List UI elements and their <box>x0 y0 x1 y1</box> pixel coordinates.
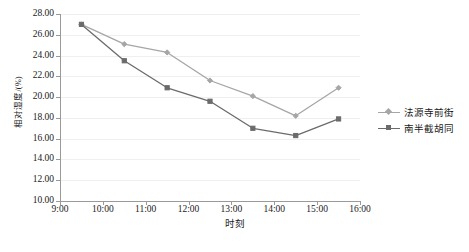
data-point <box>251 126 255 130</box>
legend-label: 法源寺前街 <box>404 105 454 119</box>
y-axis-line <box>60 14 61 202</box>
data-point <box>336 117 340 121</box>
y-axis-tick-label: 12.00 <box>8 174 54 184</box>
y-axis-tick-label: 26.00 <box>8 29 54 39</box>
series-lines <box>60 14 360 201</box>
x-axis-tick-label: 15:00 <box>297 204 337 214</box>
data-point <box>250 93 255 98</box>
data-point <box>294 133 298 137</box>
legend-item-1[interactable]: 法源寺前街 <box>378 104 454 120</box>
x-axis-tick-label: 11:00 <box>126 204 166 214</box>
data-point <box>165 86 169 90</box>
y-axis-tick-label: 28.00 <box>8 8 54 18</box>
chart-legend: 法源寺前街南半截胡同 <box>378 104 454 136</box>
data-point <box>79 22 83 26</box>
legend-label: 南半截胡同 <box>404 121 454 135</box>
y-axis-tick-label: 16.00 <box>8 133 54 143</box>
data-point <box>122 59 126 63</box>
legend-marker-icon <box>378 107 400 117</box>
y-axis-tick-label: 22.00 <box>8 70 54 80</box>
data-point <box>208 99 212 103</box>
y-axis-tick-label: 24.00 <box>8 50 54 60</box>
data-point <box>122 42 127 47</box>
x-axis-tick-label: 14:00 <box>254 204 294 214</box>
x-axis-tick-label: 16:00 <box>340 204 380 214</box>
y-axis-tick-label: 20.00 <box>8 91 54 101</box>
plot-area <box>60 14 360 201</box>
y-axis-tick-label: 14.00 <box>8 153 54 163</box>
x-axis-tick-label: 12:00 <box>169 204 209 214</box>
legend-item-2[interactable]: 南半截胡同 <box>378 120 454 136</box>
x-axis-tick-label: 13:00 <box>211 204 251 214</box>
y-axis-tick-label: 18.00 <box>8 112 54 122</box>
x-axis-line <box>60 201 361 202</box>
x-axis-title: 时刻 <box>0 216 469 230</box>
x-axis-tick-label: 9:00 <box>40 204 80 214</box>
x-axis-tick-label: 10:00 <box>83 204 123 214</box>
chart-container: 相对湿度/(%) 10.0012.0014.0016.0018.0020.002… <box>0 0 469 252</box>
legend-marker-icon <box>378 123 400 133</box>
